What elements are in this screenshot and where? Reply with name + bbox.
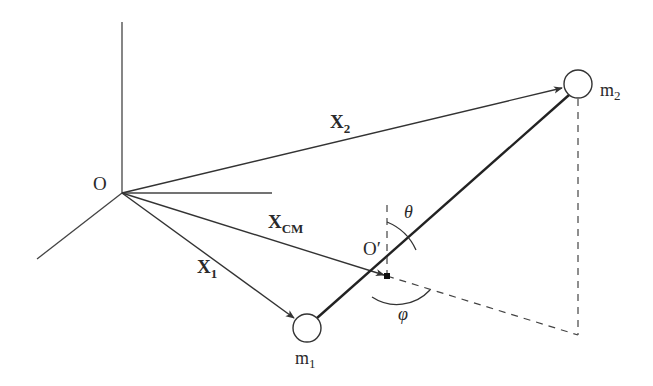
theta-arc	[387, 222, 416, 250]
origin-label: O	[93, 173, 107, 194]
m1-label: m1	[295, 348, 316, 371]
coordinate-axes	[37, 22, 272, 259]
mass-m2	[564, 70, 592, 98]
horizontal-projection	[387, 276, 578, 335]
xcm-label: XCM	[268, 211, 303, 236]
construction-lines	[387, 99, 578, 335]
phi-label: φ	[398, 304, 408, 324]
vector-x2	[122, 88, 562, 193]
cm-point-label: O′	[363, 238, 381, 259]
connecting-rod	[317, 95, 569, 318]
x-axis	[37, 193, 122, 259]
vector-xcm	[122, 193, 384, 275]
mass-m1	[293, 314, 321, 342]
m2-label: m2	[600, 80, 621, 103]
x2-label: X2	[330, 111, 350, 136]
phi-arc	[372, 290, 430, 305]
cm-diagram: O X2 XCM X1 O′ θ φ m2 m1	[0, 0, 653, 386]
center-of-mass-point	[384, 273, 390, 279]
theta-label: θ	[404, 202, 413, 222]
